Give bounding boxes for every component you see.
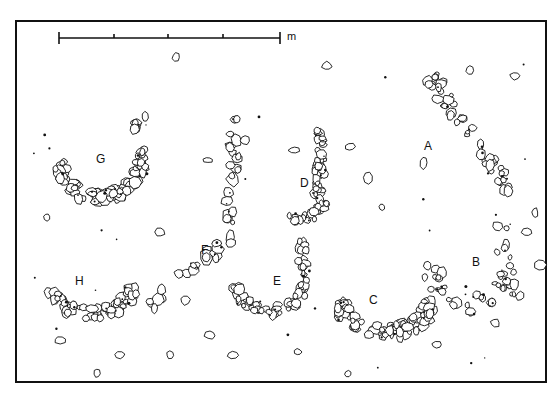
pebble [77,194,79,196]
pebble [116,239,118,241]
pebble [337,319,340,322]
stone-structure-b [494,249,500,256]
structure-label-e: E [273,274,281,288]
pebble [523,64,525,66]
pebble [48,147,50,149]
pebble [507,287,508,288]
structure-label-b: B [472,255,480,269]
stone-structure-f [235,152,240,160]
pebble [465,293,467,295]
pebble [145,172,148,175]
stones-layer [33,53,547,378]
stone-structure-a [501,177,507,183]
pebble [394,333,396,335]
stone-structure-b [438,288,446,295]
pebble [384,76,386,78]
pebble [504,278,507,281]
isolated-stone [432,342,441,349]
structure-label-d: D [300,176,309,190]
stone-structure-f [224,188,234,198]
scale-bar: m [59,30,296,44]
stone-structure-c [364,331,373,339]
isolated-stone [532,208,538,218]
pebble [472,296,474,298]
pebble [91,191,93,193]
stone-structure-a [469,124,477,131]
isolated-stone [167,351,174,359]
structure-label-c: C [369,293,378,307]
pebble [464,285,467,288]
stone-structure-d [287,212,291,219]
stone-structure-c [426,309,434,319]
isolated-stone [204,331,215,339]
pebble [259,300,261,302]
pebble [482,293,485,296]
scale-unit-label: m [287,30,296,42]
isolated-stone [288,147,300,153]
site-plan: m A B C D E F G H [0,0,553,396]
pebble [121,298,123,300]
isolated-stone [203,158,212,163]
stone-structure-f [158,284,166,295]
stone-structure-h [114,298,120,306]
pebble [120,193,122,195]
stone-structure-f [235,167,241,174]
pebble [484,357,485,358]
pebble [470,362,472,364]
isolated-stone [521,228,532,235]
pebble [269,315,271,317]
pebble [473,313,476,316]
stone-structure-e [236,296,241,303]
stone-structure-d [319,136,326,141]
stone-structure-e [300,263,306,270]
stone-structure-e [247,297,254,305]
isolated-stone [181,296,191,305]
stone-structure-g [130,124,139,134]
stone-structure-f [146,298,153,304]
pebble [308,220,310,222]
pebble [228,211,230,213]
stone-structure-b [512,291,515,296]
stone-structure-g [137,159,144,167]
isolated-stone [55,337,65,344]
pebble [294,212,297,215]
pebble [504,250,506,252]
isolated-stone [44,214,50,221]
stone-structure-b [423,261,430,270]
isolated-stone [510,73,520,80]
isolated-stone [535,260,547,270]
pebble [487,172,489,174]
pebble [492,302,494,304]
stone-structure-e [293,293,298,299]
pebble [43,134,46,137]
isolated-stone [172,53,179,62]
stone-structure-a [466,130,470,134]
isolated-stone [227,351,238,358]
stone-structure-b [449,302,457,310]
stone-structure-f [226,239,236,247]
stone-structure-b [446,297,452,302]
pebble [65,301,68,304]
pebble [190,263,192,265]
isolated-stone [379,204,385,210]
stone-structure-b [436,275,441,281]
stone-structure-h [120,304,126,309]
stone-structure-f [226,162,235,169]
stone-structure-f [152,304,158,314]
stone-structure-e [266,309,272,314]
stone-structure-b [511,269,517,275]
stone-structure-b [428,286,435,292]
stone-structure-b [504,226,509,231]
isolated-stone [142,111,148,121]
pebble [34,277,36,279]
stone-structure-e [303,277,309,283]
pebble [422,198,424,200]
pebble [506,178,508,180]
stone-structure-g [60,160,65,165]
isolated-stone [420,157,427,169]
stone-structure-g [53,166,58,173]
isolated-stone [322,61,333,69]
stone-structure-a [449,93,453,97]
pebble [481,145,484,148]
stone-structure-b [508,255,512,261]
